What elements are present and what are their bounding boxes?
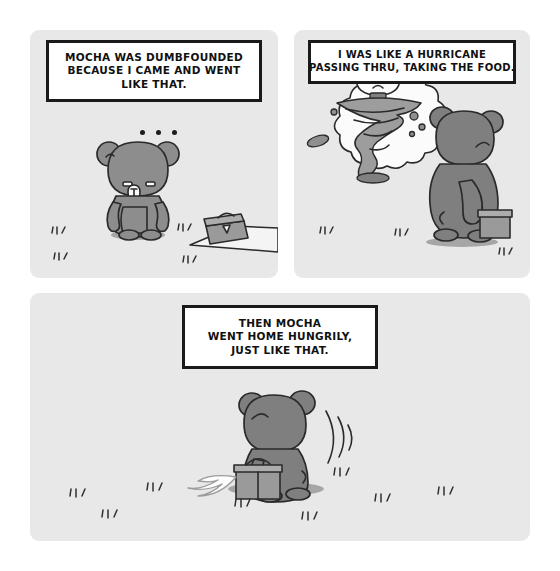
tornado (306, 98, 425, 183)
comic-panel-1: MOCHA WAS DUMBFOUNDED BECAUSE I CAME AND… (30, 30, 278, 278)
panel-2-caption: I WAS LIKE A HURRICANE PASSING THRU, TAK… (308, 40, 516, 84)
comic-panel-2: I WAS LIKE A HURRICANE PASSING THRU, TAK… (294, 30, 530, 278)
grass-tufts (70, 468, 453, 520)
bear-back-view (426, 107, 512, 247)
caption-line: PASSING THRU, TAKING THE FOOD. (309, 62, 515, 75)
caption-line: LIKE THAT. (121, 78, 186, 91)
dot (140, 130, 145, 135)
bear-walking-away (239, 391, 315, 502)
motion-lines (326, 411, 352, 463)
trailing-cloth (188, 476, 236, 496)
ellipsis-dots (140, 130, 177, 135)
caption-line: WENT HOME HUNGRILY, (208, 330, 353, 343)
grass-tufts (52, 224, 196, 263)
caption-line: I WAS LIKE A HURRICANE (338, 49, 486, 62)
grass-tufts (320, 227, 512, 255)
caption-line: MOCHA WAS DUMBFOUNDED (65, 51, 243, 64)
caption-line: JUST LIKE THAT. (231, 344, 329, 357)
dot (156, 130, 161, 135)
dot (172, 130, 177, 135)
caption-line: THEN MOCHA (239, 317, 322, 330)
caption-line: BECAUSE I CAME AND WENT (67, 64, 240, 77)
panel-1-caption: MOCHA WAS DUMBFOUNDED BECAUSE I CAME AND… (46, 40, 262, 102)
panel-3-caption: THEN MOCHA WENT HOME HUNGRILY, JUST LIKE… (182, 305, 378, 369)
carried-lunchbox (234, 459, 282, 499)
comic-panel-3: THEN MOCHA WENT HOME HUNGRILY, JUST LIKE… (30, 293, 530, 541)
comic-strip: MOCHA WAS DUMBFOUNDED BECAUSE I CAME AND… (0, 0, 560, 571)
